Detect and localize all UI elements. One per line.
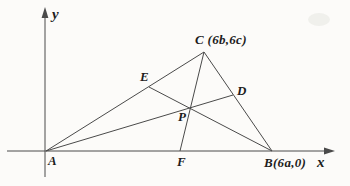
scan-smudge <box>308 13 330 26</box>
vertex-b-label: B(6a,0) <box>264 156 306 169</box>
x-axis-label: x <box>317 155 325 170</box>
segment-CF <box>180 52 204 151</box>
point-e-label: E <box>140 70 149 83</box>
point-d-label: D <box>237 84 247 97</box>
vertex-a-label: A <box>48 154 57 167</box>
axis-arrowheads <box>42 7 335 154</box>
point-p-label: P <box>178 110 186 123</box>
segment-CB <box>204 52 272 151</box>
segment-AD <box>46 95 233 151</box>
figure-canvas: y x A B(6a,0) C (6b,6c) D E F P <box>0 0 350 186</box>
segment-BE <box>149 87 272 151</box>
y-axis-label: y <box>52 7 59 22</box>
x-axis-arrowhead-icon <box>324 148 335 155</box>
vertex-c-label: C (6b,6c) <box>195 33 247 46</box>
segment-AC <box>46 52 204 151</box>
point-f-label: F <box>177 155 186 168</box>
y-axis-arrowhead-icon <box>42 7 49 18</box>
